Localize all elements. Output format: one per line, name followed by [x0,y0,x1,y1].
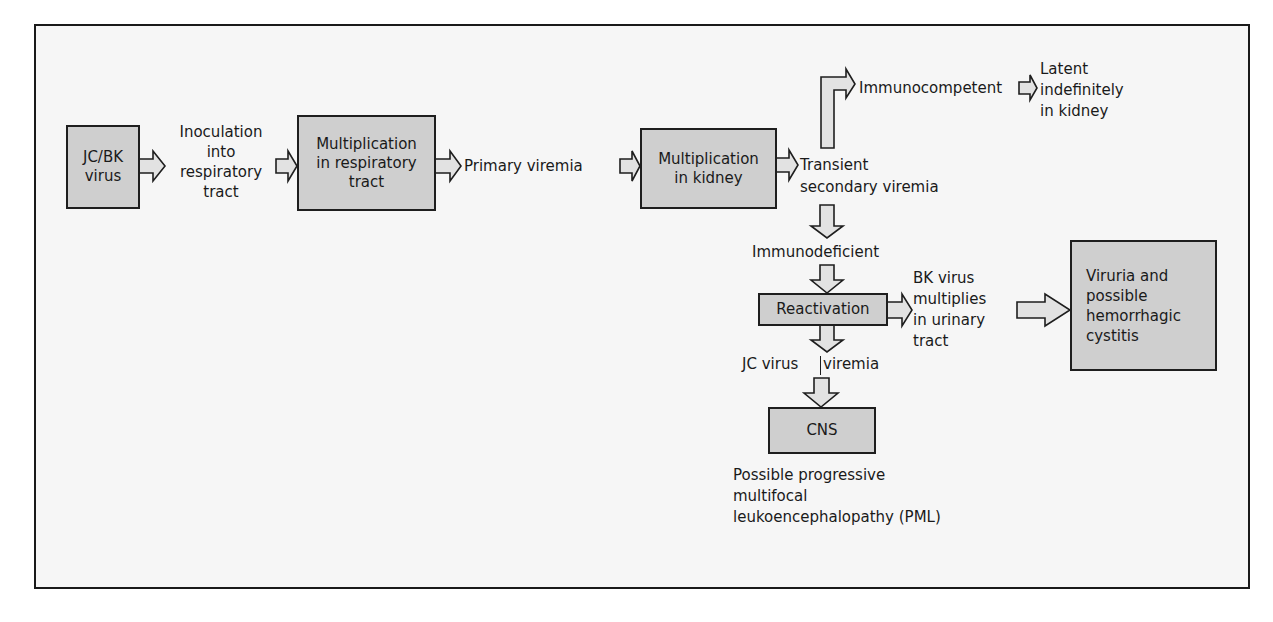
node-reactivation: Reactivation [758,293,888,326]
label-primary-viremia: Primary viremia [464,157,583,176]
label-inoculation: Inoculation into respiratory tract [166,122,276,202]
node-viruria: Viruria and possible hemorrhagic cystiti… [1070,240,1217,371]
label-immunocompetent: Immunocompetent [859,79,1002,98]
label-bk-virus-multiplies: BK virus multiplies in urinary tract [913,268,986,352]
node-jcbk-virus: JC/BK virus [66,125,140,209]
arrow-down-icon [811,325,843,352]
arrow-right-icon [620,151,640,181]
arrow-down-icon [804,378,838,407]
label-immunodeficient: Immunodeficient [752,243,879,262]
arrow-down-icon [811,265,843,293]
label-transient-secondary-viremia: Transient secondary viremia [800,154,939,198]
label-latent-in-kidney: Latent indefinitely in kidney [1040,59,1124,122]
jc-viremia-divider [820,356,821,375]
arrow-right-icon [435,151,461,181]
arrow-right-icon [887,294,912,326]
label-viremia: viremia [823,355,879,374]
node-cns: CNS [768,407,876,454]
arrow-right-icon [776,150,798,180]
label-pml: Possible progressive multifocal leukoenc… [733,465,941,528]
arrow-right-icon [1019,75,1037,100]
arrow-right-icon [1017,294,1070,326]
node-multiplication-respiratory: Multiplication in respiratory tract [297,115,436,211]
node-multiplication-kidney: Multiplication in kidney [640,128,777,209]
arrow-right-icon [139,151,165,181]
label-jc-virus: JC virus [742,355,798,374]
bent-arrow-up-right-icon [821,69,855,148]
arrow-down-icon [811,205,843,238]
arrow-right-icon [276,151,297,181]
